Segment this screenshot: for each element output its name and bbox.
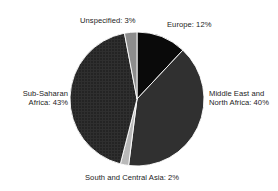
- slice-label-south-and-central-asia: South and Central Asia: 2%: [85, 173, 179, 182]
- slice-label-unspecified: Unspecified: 3%: [80, 16, 136, 25]
- slice-label-ssa-line2: Africa: 43%: [29, 98, 68, 107]
- slice-label-middle-east-and-north-africa: Middle East andNorth Africa: 40%: [209, 89, 277, 108]
- slice-label-europe: Europe: 12%: [167, 20, 211, 29]
- slice-label-sub-saharan-africa: Sub-SaharanAfrica: 43%: [6, 89, 68, 108]
- slice-label-ssa-line1: Sub-Saharan: [23, 89, 68, 98]
- slice-label-mena-line1: Middle East and: [209, 89, 264, 98]
- pie-chart-figure: Unspecified: 3% Europe: 12% Middle East …: [0, 0, 278, 191]
- slice-label-mena-line2: North Africa: 40%: [209, 98, 269, 107]
